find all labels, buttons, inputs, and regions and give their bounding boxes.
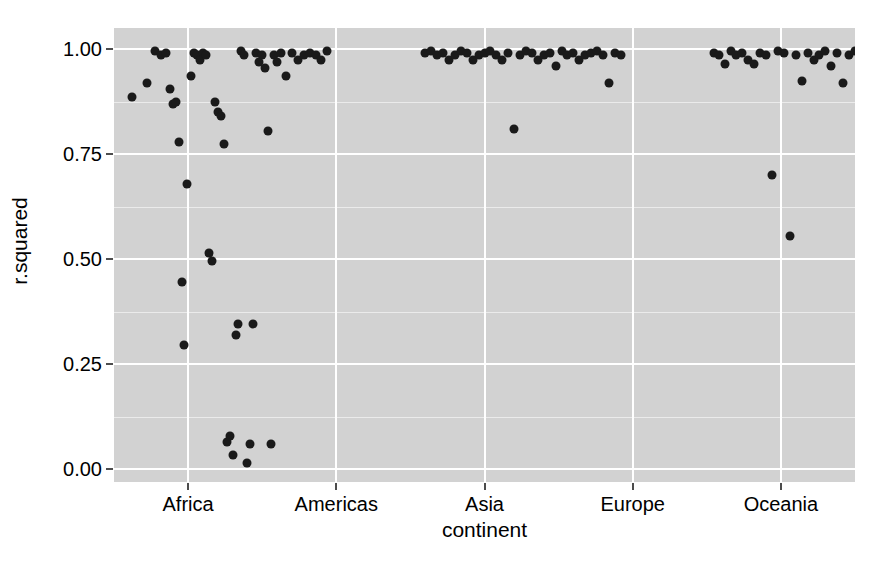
data-point xyxy=(281,72,290,81)
data-point xyxy=(273,57,282,66)
x-axis-tick-mark xyxy=(335,483,337,490)
y-axis-tick-label: 1.00 xyxy=(42,39,102,59)
data-point xyxy=(504,49,513,58)
data-point xyxy=(827,61,836,70)
data-point xyxy=(240,51,249,60)
data-point xyxy=(179,341,188,350)
plot-panel xyxy=(114,28,855,482)
data-point xyxy=(225,431,234,440)
gridline-major-vertical xyxy=(335,28,337,482)
data-point xyxy=(720,59,729,68)
y-axis-tick-label: 0.00 xyxy=(42,459,102,479)
data-point xyxy=(258,51,267,60)
data-point xyxy=(207,257,216,266)
data-point xyxy=(791,51,800,60)
data-point xyxy=(779,49,788,58)
x-axis-tick-label: Oceania xyxy=(744,493,819,516)
x-axis-tick-label: Europe xyxy=(600,493,665,516)
gridline-major-vertical xyxy=(780,28,782,482)
y-axis-tick-label: 0.50 xyxy=(42,249,102,269)
data-point xyxy=(234,320,243,329)
y-axis-tick-mark xyxy=(106,258,113,260)
x-axis-title: continent xyxy=(114,518,855,542)
y-axis-title-text: r.squared xyxy=(8,197,32,285)
data-point xyxy=(166,84,175,93)
data-point xyxy=(510,124,519,133)
data-point xyxy=(551,61,560,70)
data-point xyxy=(246,440,255,449)
data-point xyxy=(216,112,225,121)
data-point xyxy=(317,55,326,64)
data-point xyxy=(175,137,184,146)
y-axis-tick-mark xyxy=(106,153,113,155)
data-point xyxy=(616,51,625,60)
x-axis-tick-label: Americas xyxy=(295,493,378,516)
data-point xyxy=(243,459,252,468)
y-axis-tick-label: 0.25 xyxy=(42,354,102,374)
data-point xyxy=(127,93,136,102)
data-point xyxy=(851,47,856,56)
x-axis-tick-label: Asia xyxy=(465,493,504,516)
data-point xyxy=(172,97,181,106)
data-point xyxy=(161,49,170,58)
data-point xyxy=(323,47,332,56)
y-axis-tick-labels: 0.000.250.500.751.00 xyxy=(34,0,102,566)
data-point xyxy=(231,330,240,339)
gridline-major-vertical xyxy=(484,28,486,482)
data-point xyxy=(264,126,273,135)
data-point xyxy=(210,97,219,106)
data-point xyxy=(833,49,842,58)
data-point xyxy=(762,51,771,60)
data-point xyxy=(187,72,196,81)
data-point xyxy=(839,78,848,87)
data-point xyxy=(201,51,210,60)
data-point xyxy=(750,59,759,68)
y-axis-tick-mark xyxy=(106,48,113,50)
data-point xyxy=(714,51,723,60)
scatter-plot-figure: r.squared 0.000.250.500.751.00 continent… xyxy=(0,0,891,566)
data-point xyxy=(604,78,613,87)
x-axis-tick-mark xyxy=(484,483,486,490)
data-point xyxy=(219,139,228,148)
x-axis-tick-mark xyxy=(780,483,782,490)
y-axis-tick-mark xyxy=(106,468,113,470)
data-point xyxy=(267,440,276,449)
gridline-major-vertical xyxy=(187,28,189,482)
x-axis-tick-mark xyxy=(632,483,634,490)
data-point xyxy=(545,49,554,58)
x-axis-tick-label: Africa xyxy=(163,493,214,516)
gridline-major-vertical xyxy=(632,28,634,482)
data-point xyxy=(785,232,794,241)
data-point xyxy=(768,171,777,180)
data-point xyxy=(178,278,187,287)
x-axis-tick-mark xyxy=(187,483,189,490)
y-axis-tick-label: 0.75 xyxy=(42,144,102,164)
data-point xyxy=(821,47,830,56)
data-point xyxy=(261,63,270,72)
data-point xyxy=(249,320,258,329)
y-axis-tick-mark xyxy=(106,363,113,365)
data-point xyxy=(599,51,608,60)
data-point xyxy=(228,450,237,459)
data-point xyxy=(142,78,151,87)
data-point xyxy=(797,76,806,85)
data-point xyxy=(277,49,286,58)
data-point xyxy=(182,179,191,188)
